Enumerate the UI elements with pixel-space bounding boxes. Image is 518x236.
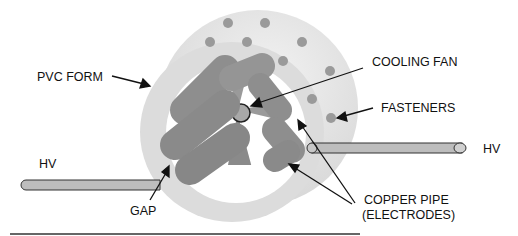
label-hv-right: HV <box>483 142 500 156</box>
label-fasteners: FASTENERS <box>381 101 455 115</box>
label-cooling-fan: COOLING FAN <box>372 55 457 69</box>
label-electrodes: (ELECTRODES) <box>362 208 455 222</box>
label-pvc-form: PVC FORM <box>37 70 103 84</box>
label-copper-pipe: COPPER PIPE <box>364 193 449 207</box>
hv-rod-left <box>21 180 160 190</box>
label-gap: GAP <box>130 204 156 218</box>
hv-rod-right <box>307 143 466 153</box>
label-hv-left: HV <box>39 157 56 171</box>
